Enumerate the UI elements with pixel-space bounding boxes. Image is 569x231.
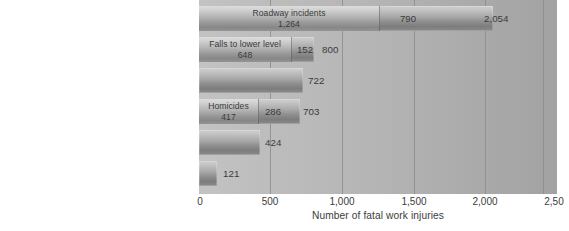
remainder-value: 152 [297, 44, 313, 55]
fatal-work-injuries-bar-chart: Transportation incidents Roadway inciden… [0, 0, 569, 231]
bar-total[interactable]: Roadway incidents 1,264 [199, 6, 493, 31]
bar-segment: Homicides 417 [199, 99, 259, 124]
bar-segment: Roadway incidents 1,264 [199, 6, 380, 31]
remainder-value: 790 [400, 13, 416, 24]
segment-value: 648 [199, 50, 291, 61]
xtick-0: 0 [197, 196, 203, 208]
remainder-value: 286 [265, 106, 281, 117]
bar-total[interactable] [199, 68, 303, 93]
segment-value: 1,264 [199, 19, 379, 30]
xtick-2000: 2,000 [472, 196, 497, 208]
bar-total[interactable] [199, 130, 260, 155]
xtick-500: 500 [262, 196, 279, 208]
total-value: 121 [223, 168, 239, 179]
x-axis-title: Number of fatal work injuries [199, 210, 557, 222]
segment-text: Falls to lower level 648 [199, 39, 291, 60]
total-value: 722 [308, 75, 324, 86]
segment-text: Roadway incidents 1,264 [199, 8, 379, 29]
segment-label: Roadway incidents [199, 8, 379, 19]
bar-total[interactable]: Homicides 417 [199, 99, 300, 124]
segment-text: Homicides 417 [199, 101, 258, 122]
total-value: 424 [265, 137, 281, 148]
gridline-2500 [543, 0, 544, 194]
total-value: 703 [303, 106, 319, 117]
bar-segment: Falls to lower level 648 [199, 37, 292, 62]
xtick-1500: 1,500 [401, 196, 426, 208]
xtick-2500: 2,50 [544, 196, 563, 208]
bar-total[interactable] [199, 161, 217, 186]
segment-label: Falls to lower level [199, 39, 291, 50]
segment-value: 417 [199, 112, 258, 123]
total-value: 2,054 [484, 13, 509, 24]
xtick-1000: 1,000 [329, 196, 354, 208]
segment-label: Homicides [199, 101, 258, 112]
total-value: 800 [322, 44, 338, 55]
